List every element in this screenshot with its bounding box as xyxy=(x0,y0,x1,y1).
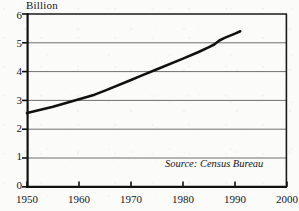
chart-canvas xyxy=(0,0,299,211)
population-line-chart: Billion 6 5 4 3 2 1 0 1950 1960 1970 198… xyxy=(0,0,299,211)
y-axis-ticks xyxy=(22,14,27,187)
gridlines xyxy=(27,43,287,158)
source-attribution: Source: Census Bureau xyxy=(165,158,263,169)
